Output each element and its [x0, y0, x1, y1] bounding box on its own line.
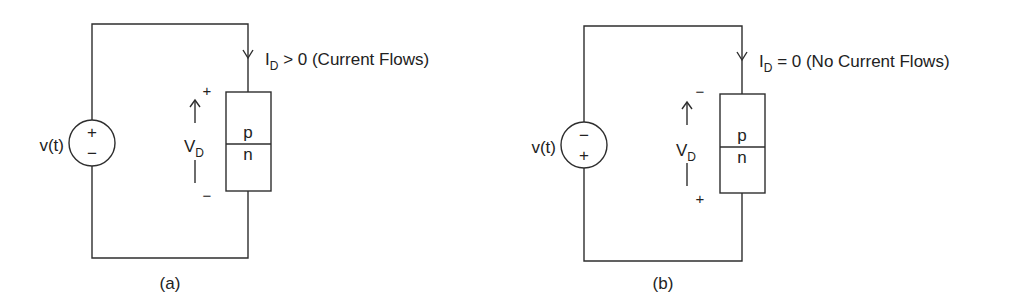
- source-top-sign: −: [579, 126, 589, 145]
- circuit-b: − + v(t) ID = 0 (No Current Flows) p n −…: [531, 26, 949, 293]
- circuit-a: + − v(t) ID > 0 (Current Flows) p n + VD…: [39, 24, 429, 293]
- n-region-label: n: [243, 145, 252, 164]
- voltage-source: − + v(t): [531, 122, 607, 168]
- diode-voltage-indicator: + VD −: [184, 82, 212, 204]
- current-indicator: ID > 0 (Current Flows): [243, 50, 429, 73]
- current-label: ID > 0 (Current Flows): [265, 50, 429, 73]
- pn-junction-diode: p n: [720, 94, 765, 193]
- voltage-top-sign: +: [203, 82, 212, 99]
- source-label: v(t): [39, 136, 64, 155]
- voltage-label: VD: [184, 137, 204, 160]
- source-bottom-sign: +: [579, 146, 589, 165]
- pn-junction-diode: p n: [226, 92, 271, 191]
- wire-loop-top: [92, 24, 248, 120]
- p-region-label: p: [243, 123, 252, 142]
- voltage-bottom-sign: +: [696, 190, 705, 207]
- wire-loop-bottom: [584, 168, 742, 261]
- wire-loop-bottom: [92, 166, 248, 258]
- wire-loop-top: [584, 26, 742, 122]
- voltage-bottom-sign: −: [203, 187, 212, 204]
- source-label: v(t): [531, 138, 556, 157]
- voltage-top-sign: −: [696, 83, 705, 100]
- diode-bias-figure: + − v(t) ID > 0 (Current Flows) p n + VD…: [0, 0, 1016, 307]
- source-top-sign: +: [87, 123, 97, 142]
- n-region-label: n: [737, 148, 746, 167]
- caption-a: (a): [160, 274, 181, 293]
- voltage-label: VD: [676, 141, 696, 164]
- source-bottom-sign: −: [87, 144, 97, 163]
- current-indicator: ID = 0 (No Current Flows): [737, 52, 950, 75]
- current-label: ID = 0 (No Current Flows): [759, 52, 950, 75]
- voltage-source: + − v(t): [39, 120, 115, 166]
- diode-voltage-indicator: − VD +: [676, 83, 705, 207]
- p-region-label: p: [737, 126, 746, 145]
- caption-b: (b): [653, 274, 674, 293]
